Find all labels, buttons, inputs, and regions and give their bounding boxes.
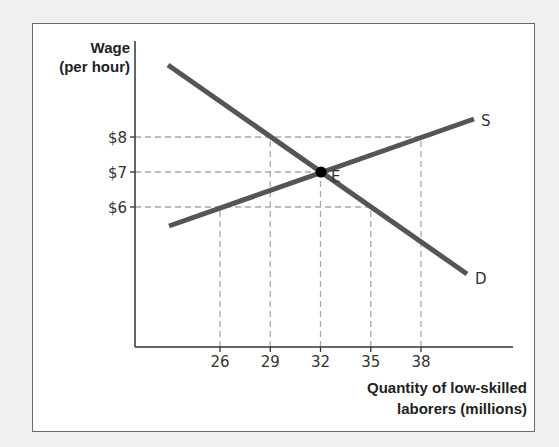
x-tick-label: 26 [210, 353, 229, 371]
x-tick-label: 38 [411, 353, 430, 371]
x-axis-title-line-1: Quantity of low-skilled [367, 377, 527, 398]
y-tick-label: $6 [108, 199, 127, 217]
x-tick-label: 35 [361, 353, 380, 371]
y-tick-label: $8 [108, 129, 127, 147]
x-axis-ticks: 2629323538 [210, 347, 430, 371]
reference-lines [135, 137, 421, 347]
demand-label: D [475, 270, 487, 288]
y-axis-title-line-2: (per hour) [59, 57, 130, 76]
equilibrium-label: E [331, 168, 340, 186]
x-axis-title-line-2: laborers (millions) [367, 398, 527, 419]
x-axis-title: Quantity of low-skilled laborers (millio… [367, 377, 527, 419]
y-axis-ticks: $8$7$6 [108, 129, 135, 217]
x-tick-label: 32 [311, 353, 330, 371]
y-axis-title-line-1: Wage [59, 38, 130, 57]
y-tick-label: $7 [108, 164, 127, 182]
equilibrium-point [316, 167, 327, 178]
x-tick-label: 29 [261, 353, 280, 371]
y-axis-title: Wage (per hour) [59, 38, 130, 76]
supply-label: S [481, 112, 491, 130]
